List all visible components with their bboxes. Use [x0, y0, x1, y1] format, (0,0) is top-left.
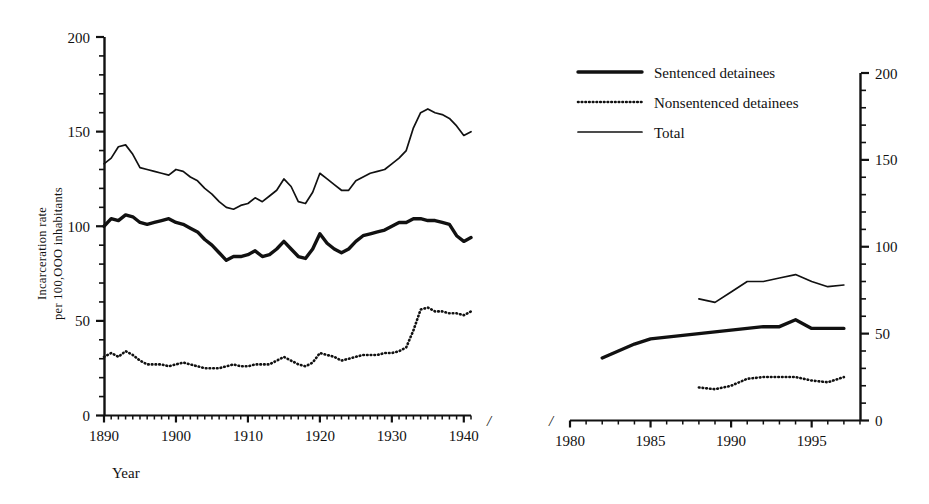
left-panel-series: [104, 109, 471, 368]
y-tick-label: 0: [875, 413, 883, 429]
series-line-sentenced-detainees: [602, 320, 844, 358]
legend-label-sentenced-detainees: Sentenced detainees: [654, 65, 775, 81]
y-tick-label: 50: [875, 326, 890, 342]
x-tick-label: 1920: [305, 428, 335, 444]
y-tick-label: 150: [875, 152, 898, 168]
right-panel-series: [602, 275, 844, 390]
right-panel-axes: 0501001502001980198519901995: [555, 66, 898, 450]
x-tick-label: 1910: [233, 428, 263, 444]
left-panel-axes: 050100150200189019001910192019301940: [68, 30, 479, 445]
x-axis-title: Year: [112, 465, 140, 481]
legend-label-nonsentenced-detainees: Nonsentenced detainees: [654, 95, 799, 111]
incarceration-rate-line-chart: Incarceration rate per 100,OOO inhabitan…: [0, 0, 929, 504]
y-tick-label: 0: [83, 408, 91, 424]
x-tick-label: 1900: [161, 428, 191, 444]
series-line-total: [104, 109, 471, 209]
y-tick-label: 100: [875, 239, 898, 255]
series-line-total: [699, 275, 844, 303]
y-tick-label: 100: [68, 219, 91, 235]
x-tick-label: 1995: [797, 433, 827, 449]
series-line-sentenced-detainees: [104, 215, 471, 260]
legend-label-total: Total: [654, 125, 685, 141]
chart-legend: Sentenced detaineesNonsentenced detainee…: [578, 65, 799, 141]
axis-break-left-icon: /: [486, 413, 493, 429]
axis-break-marks: / /: [486, 413, 555, 429]
series-line-nonsentenced-detainees: [104, 308, 471, 369]
axis-break-right-icon: /: [548, 413, 555, 429]
y-axis-label-line1: Incarceration rate: [35, 207, 49, 300]
chart-figure: Incarceration rate per 100,OOO inhabitan…: [0, 0, 929, 504]
x-tick-label: 1940: [449, 428, 479, 444]
x-tick-label: 1985: [636, 433, 666, 449]
y-axis-label-line2: per 100,OOO inhabitants: [51, 187, 65, 320]
y-tick-label: 50: [75, 313, 90, 329]
series-line-nonsentenced-detainees: [699, 377, 844, 389]
y-tick-label: 200: [68, 30, 91, 46]
x-tick-label: 1980: [555, 433, 585, 449]
y-tick-label: 150: [68, 124, 91, 140]
y-tick-label: 200: [875, 66, 898, 82]
x-tick-label: 1930: [377, 428, 407, 444]
y-axis-label: Incarceration rate per 100,OOO inhabitan…: [35, 187, 65, 320]
x-tick-label: 1990: [716, 433, 746, 449]
x-tick-label: 1890: [89, 428, 119, 444]
